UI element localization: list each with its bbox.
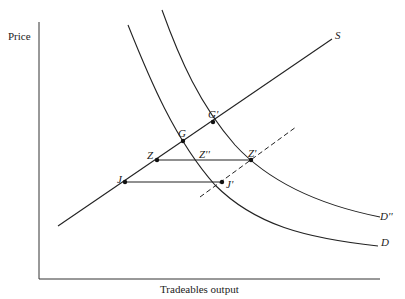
point-j-prime <box>220 180 224 184</box>
label-j-prime: J' <box>226 179 233 190</box>
demand-label: D <box>381 237 389 248</box>
point-j <box>123 180 127 184</box>
supply-curve <box>58 39 332 226</box>
point-g <box>181 139 185 143</box>
label-j: J <box>117 174 122 185</box>
label-g-prime: G' <box>208 109 218 120</box>
demand-curve-d <box>128 25 378 246</box>
y-axis-label: Price <box>8 31 31 42</box>
supply-label: S <box>335 30 341 41</box>
point-z <box>155 158 159 162</box>
x-axis-label: Tradeables output <box>160 284 239 295</box>
label-g: G <box>178 128 186 139</box>
label-z-double-prime: Z'' <box>199 149 210 160</box>
demand-double-prime-label: D'' <box>380 211 393 222</box>
label-z-prime: Z' <box>248 148 256 159</box>
point-g-prime <box>211 120 215 124</box>
label-z: Z <box>147 150 153 161</box>
demand-curve-d-double-prime <box>162 10 380 217</box>
dashed-line <box>200 127 296 197</box>
